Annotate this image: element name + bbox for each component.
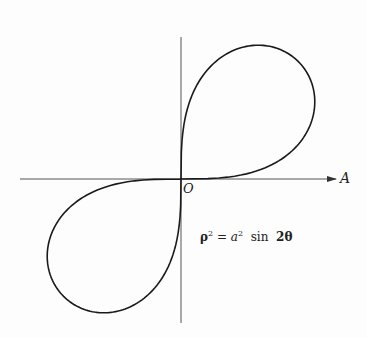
lemniscate-diagram: O A ρ2 = a2 sin 2θ [0, 0, 367, 337]
sin-function: sin [251, 230, 269, 244]
rho-exponent: 2 [208, 229, 213, 238]
a-symbol: a [231, 230, 238, 244]
equals-sign: = [217, 230, 227, 244]
polar-axis-label: A [340, 170, 350, 186]
diagram-canvas [0, 0, 367, 337]
a-exponent: 2 [238, 229, 243, 238]
equation-label: ρ2 = a2 sin 2θ [200, 229, 292, 244]
angle-argument: 2θ [276, 230, 292, 244]
rho-symbol: ρ [200, 230, 208, 244]
origin-label: O [183, 181, 194, 196]
